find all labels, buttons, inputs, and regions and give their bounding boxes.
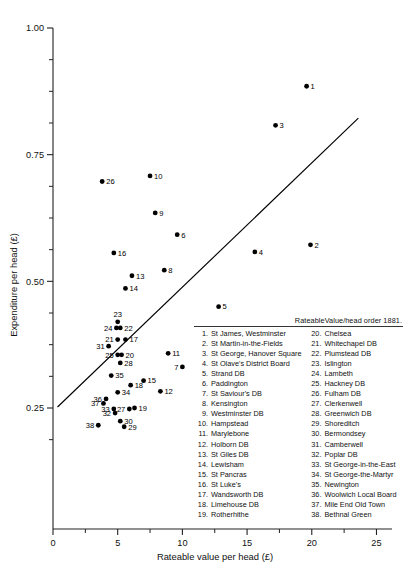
y-axis-tick-labels: 0.250.500.751.00 — [26, 23, 44, 413]
x-tick-label: 25 — [371, 538, 381, 548]
legend-item-label: Bethnal Green — [324, 510, 371, 520]
legend-item-number: 26. — [307, 389, 321, 399]
legend-item-label: Bermondsey — [324, 429, 365, 439]
legend-item-number: 34. — [307, 470, 321, 480]
legend-item: 3.St George, Hanover Square — [194, 349, 301, 359]
legend-item: 29.Shoreditch — [307, 419, 396, 429]
legend-item: 2.St Martin-in-the-Fields — [194, 339, 301, 349]
legend-item-label: Paddington — [211, 379, 248, 389]
data-point-label: 11 — [172, 349, 180, 358]
legend-column-2: 20.Chelsea21.Whitechapel DB22.Plumstead … — [307, 329, 396, 520]
legend-item-number: 28. — [307, 409, 321, 419]
legend-item: 11.Marylebone — [194, 429, 301, 439]
legend-item-number: 2. — [194, 339, 208, 349]
data-point-label: 31 — [96, 342, 104, 351]
legend-item: 6.Paddington — [194, 379, 301, 389]
x-tick-label: 10 — [177, 538, 187, 548]
legend-divider — [194, 326, 403, 327]
data-point — [148, 174, 153, 179]
legend-item-number: 10. — [194, 419, 208, 429]
data-point-label: 35 — [115, 371, 123, 380]
y-axis-ticks — [47, 28, 53, 440]
legend-item-number: 11. — [194, 429, 208, 439]
legend-item-number: 8. — [194, 399, 208, 409]
legend-item-number: 35. — [307, 480, 321, 490]
legend-item: 9.Westminster DB — [194, 409, 301, 419]
legend-item-label: Greenwich DB — [324, 409, 371, 419]
legend-item-number: 3. — [194, 349, 208, 359]
legend-item-label: Wandsworth DB — [211, 490, 263, 500]
legend-item: 16.St Luke's — [194, 480, 301, 490]
data-point — [127, 407, 132, 412]
data-point-label: 26 — [106, 177, 114, 186]
legend-item-label: Hampstead — [211, 419, 248, 429]
legend-item-label: Poplar DB — [324, 450, 357, 460]
legend-item: 14.Lewisham — [194, 460, 301, 470]
legend-item-number: 5. — [194, 369, 208, 379]
legend-item-number: 15. — [194, 470, 208, 480]
data-point — [130, 273, 135, 278]
y-tick-label: 1.00 — [26, 23, 44, 33]
y-tick-label: 0.25 — [26, 403, 44, 413]
legend-item: 32.Poplar DB — [307, 450, 396, 460]
legend-item: 12.Holborn DB — [194, 440, 301, 450]
legend-item-label: Plumstead DB — [324, 349, 371, 359]
legend-item: 21.Whitechapel DB — [307, 339, 396, 349]
legend-item-label: Fulham DB — [324, 389, 361, 399]
legend-item-number: 21. — [307, 339, 321, 349]
legend-item-number: 24. — [307, 369, 321, 379]
legend-item-number: 19. — [194, 510, 208, 520]
legend-item: 33.St George-in-the-East — [307, 460, 396, 470]
legend-item-label: Lewisham — [211, 460, 244, 470]
legend-panel: RateableValue/head order 1881. 1.St Jame… — [194, 316, 403, 520]
legend-item: 38.Bethnal Green — [307, 510, 396, 520]
data-point — [113, 411, 118, 416]
y-tick-label: 0.75 — [26, 150, 44, 160]
legend-item: 19.Rotherhithe — [194, 510, 301, 520]
legend-item-label: Shoreditch — [324, 419, 359, 429]
data-point-label: 4 — [259, 248, 263, 257]
legend-item-label: St George-the-Martyr — [324, 470, 393, 480]
data-point-label: 1 — [311, 82, 315, 91]
legend-item: 22.Plumstead DB — [307, 349, 396, 359]
legend-item-label: Newington — [324, 480, 358, 490]
x-tick-label: 15 — [242, 538, 252, 548]
legend-column-1: 1.St James, Westminster2.St Martin-in-th… — [194, 329, 301, 520]
legend-item: 1.St James, Westminster — [194, 329, 301, 339]
legend-item: 25.Hackney DB — [307, 379, 396, 389]
data-point-label: 18 — [135, 381, 143, 390]
legend-item: 17.Wandsworth DB — [194, 490, 301, 500]
data-point — [180, 365, 185, 370]
x-tick-label: 5 — [115, 538, 120, 548]
legend-item-number: 12. — [194, 440, 208, 450]
data-point-label: 38 — [86, 421, 94, 430]
data-point — [96, 423, 101, 428]
legend-item-label: St Martin-in-the-Fields — [211, 339, 283, 349]
data-point — [123, 337, 128, 342]
data-point-label: 27 — [117, 405, 125, 414]
legend-item-number: 14. — [194, 460, 208, 470]
legend-item-label: Limehouse DB — [211, 500, 259, 510]
x-axis-tick-labels: 0510152025 — [50, 538, 381, 548]
data-point — [158, 389, 163, 394]
data-point-label: 9 — [159, 209, 163, 218]
data-point-label: 2 — [314, 241, 318, 250]
legend-item-label: St Pancras — [211, 470, 247, 480]
legend-item-number: 25. — [307, 379, 321, 389]
legend-item-label: St Saviour's DB — [211, 389, 262, 399]
data-point — [304, 84, 309, 89]
legend-item: 10.Hampstead — [194, 419, 301, 429]
data-point-label: 17 — [129, 335, 137, 344]
data-point — [128, 383, 133, 388]
legend-item-number: 30. — [307, 429, 321, 439]
data-point-label: 33 — [101, 405, 109, 414]
data-point-label: 15 — [148, 376, 156, 385]
legend-item-label: Hackney DB — [324, 379, 365, 389]
legend-item: 34.St George-the-Martyr — [307, 470, 396, 480]
legend-item-number: 16. — [194, 480, 208, 490]
legend-item-label: Camberwell — [324, 440, 363, 450]
legend-item-number: 23. — [307, 359, 321, 369]
legend-item-number: 1. — [194, 329, 208, 339]
legend-item: 24.Lambeth — [307, 369, 396, 379]
legend-item: 27.Clerkenwell — [307, 399, 396, 409]
